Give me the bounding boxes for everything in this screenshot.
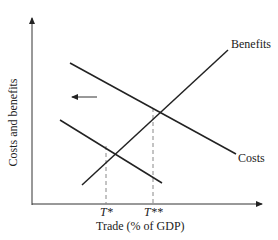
diagram-canvas — [0, 0, 278, 240]
benefits-label: Benefits — [231, 37, 271, 52]
costs-curve — [70, 63, 236, 154]
t-star-label: T* — [100, 205, 113, 220]
y-axis-label: Costs and benefits — [6, 63, 21, 183]
benefits-curve — [82, 50, 228, 185]
costs-label: Costs — [238, 151, 265, 166]
t-double-star-label: T** — [144, 205, 163, 220]
x-axis-label: Trade (% of GDP) — [96, 219, 185, 234]
costs-shifted-curve — [60, 120, 162, 183]
